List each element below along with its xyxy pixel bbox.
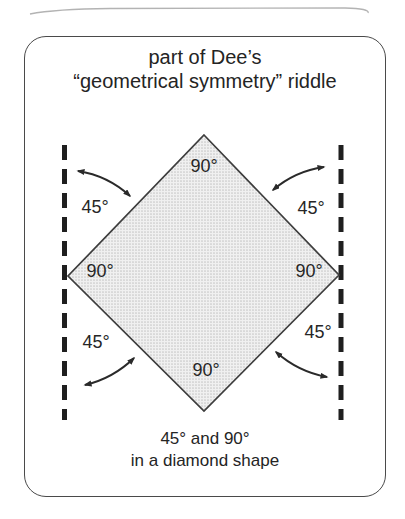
angle-arrow-bottom-left <box>85 358 134 385</box>
angle-label-top-left: 45° <box>81 197 108 217</box>
angle-arrow-top-left <box>78 171 130 196</box>
angle-label-corner-right: 90° <box>295 261 322 281</box>
scan-edge-artifact <box>30 8 368 14</box>
scanned-page: part of Dee’s “geometrical symmetry” rid… <box>0 0 405 519</box>
angle-label-corner-left: 90° <box>86 261 113 281</box>
figure-caption-line2: in a diamond shape <box>24 450 386 472</box>
figure-caption: 45° and 90° in a diamond shape <box>24 428 386 472</box>
angle-arrow-bottom-right <box>276 352 327 377</box>
angle-label-top-right: 45° <box>297 198 324 218</box>
angle-label-bottom-right: 45° <box>304 322 331 342</box>
angle-label-bottom-left: 45° <box>82 332 109 352</box>
angle-label-corner-bottom: 90° <box>192 360 219 380</box>
angle-arrow-top-right <box>273 167 324 190</box>
figure-caption-line1: 45° and 90° <box>24 428 386 450</box>
angle-label-corner-top: 90° <box>190 156 217 176</box>
